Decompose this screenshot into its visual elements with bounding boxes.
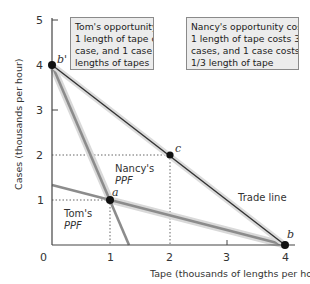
point-bprime (48, 61, 56, 69)
label-b: b (287, 228, 294, 241)
y-tick-2: 2 (36, 149, 43, 162)
nancy-box-line-3: cases, and 1 case costs (191, 45, 294, 57)
y-tick-5: 5 (36, 14, 43, 27)
y-axis-title: Cases (thousands per hour) (13, 58, 24, 190)
nancy-ppf-label: Nancy's (115, 163, 154, 174)
nancy-opportunity-cost-box: Nancy's opportunity costs: 1 length of t… (186, 17, 299, 70)
x-axis-title: Tape (thousands of lengths per hour) (149, 268, 310, 279)
nancy-box-line-1: Nancy's opportunity costs: (191, 21, 294, 33)
nancy-box-line-4: 1/3 length of tape (191, 57, 294, 69)
x-tick-4: 4 (282, 251, 289, 264)
trade-line-label: Trade line (237, 192, 287, 203)
x-tick-1: 1 (107, 251, 114, 264)
nancy-ppf-label-2: PPF (115, 175, 133, 186)
nancy-box-line-2: 1 length of tape costs 3 (191, 33, 294, 45)
origin-label: 0 (40, 251, 47, 264)
y-tick-3: 3 (36, 104, 43, 117)
x-tick-3: 3 (223, 251, 230, 264)
tom-box-line-1: Tom's opportunity costs: (75, 21, 149, 33)
label-c: c (175, 142, 181, 155)
tom-box-line-2: 1 length of tape costs 1/3 (75, 33, 149, 45)
tom-ppf-label-2: PPF (64, 220, 82, 231)
tom-ppf-label: Tom's (63, 208, 92, 219)
label-bprime: b' (57, 53, 67, 66)
tom-box-line-4: lengths of tapes (75, 57, 149, 69)
y-tick-1: 1 (37, 194, 44, 207)
tom-opportunity-cost-box: Tom's opportunity costs: 1 length of tap… (70, 17, 154, 70)
point-b (281, 241, 289, 249)
label-a: a (112, 186, 119, 199)
point-c (166, 151, 173, 158)
x-tick-2: 2 (166, 251, 173, 264)
tom-box-line-3: case, and 1 case costs 3 (75, 45, 149, 57)
y-tick-4: 4 (36, 59, 43, 72)
